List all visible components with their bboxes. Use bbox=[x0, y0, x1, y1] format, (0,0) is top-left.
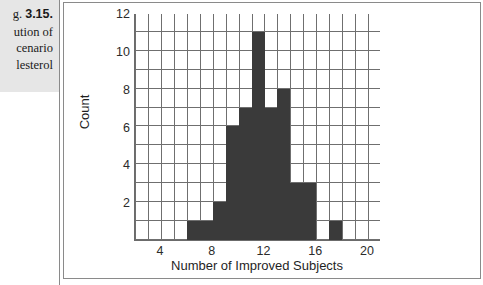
histogram-bar bbox=[200, 221, 213, 240]
histogram-bar bbox=[277, 89, 290, 240]
histogram-bar bbox=[329, 221, 342, 240]
y-axis-tick-labels: 24681012 bbox=[98, 14, 130, 241]
x-tick-label: 20 bbox=[352, 244, 382, 258]
figure-caption-box: g. 3.15. ution of cenario lesterol bbox=[0, 0, 60, 92]
x-tick-label: 12 bbox=[248, 244, 278, 258]
y-tick-label: 6 bbox=[100, 123, 130, 133]
histogram-bar bbox=[290, 183, 303, 240]
figure-caption-text: ution of cenario lesterol bbox=[0, 24, 53, 74]
figure-number: 3.15. bbox=[25, 7, 53, 21]
histogram-bar bbox=[213, 202, 226, 240]
histogram-bar bbox=[303, 183, 316, 240]
x-tick-label: 4 bbox=[145, 244, 175, 258]
caption-line-2: cenario bbox=[0, 40, 53, 57]
x-tick-label: 16 bbox=[300, 244, 330, 258]
histogram-bar bbox=[239, 108, 252, 240]
histogram-bar bbox=[226, 126, 239, 240]
x-tick-label: 8 bbox=[197, 244, 227, 258]
y-tick-label: 4 bbox=[100, 160, 130, 170]
histogram-bars bbox=[135, 14, 380, 240]
y-tick-label: 8 bbox=[100, 85, 130, 95]
histogram-bar bbox=[264, 108, 277, 240]
y-axis-title: Count bbox=[77, 95, 92, 130]
figure-caption-label: g. 3.15. bbox=[0, 6, 53, 23]
x-axis-title: Number of Improved Subjects bbox=[134, 258, 380, 273]
figure-label-prefix: g. bbox=[13, 7, 22, 21]
caption-vertical-rule bbox=[59, 92, 60, 285]
caption-line-3: lesterol bbox=[0, 57, 53, 74]
histogram-bar bbox=[187, 221, 200, 240]
caption-line-1: ution of bbox=[0, 24, 53, 41]
y-tick-label: 2 bbox=[100, 198, 130, 208]
y-tick-label: 12 bbox=[100, 9, 130, 19]
histogram-plot-area bbox=[134, 14, 380, 241]
y-tick-label: 10 bbox=[100, 47, 130, 57]
